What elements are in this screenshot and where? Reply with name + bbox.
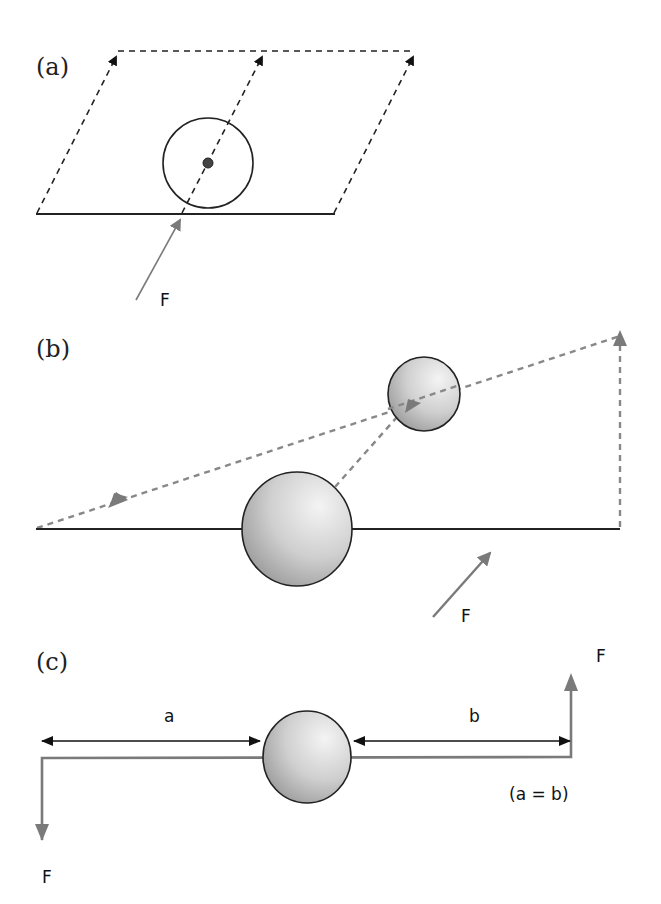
center-of-mass-dot: [203, 158, 213, 168]
pivot-sphere: [263, 711, 351, 803]
force-arrow-a: [136, 220, 180, 300]
large-sphere: [242, 472, 352, 586]
panel-b-label: (b): [36, 335, 70, 363]
down-force-arrowhead-icon: [35, 824, 49, 841]
hypotenuse-arrow-icon: [108, 492, 128, 508]
diagram-canvas: (a) F (b): [0, 0, 661, 904]
force-label-a: F: [160, 290, 170, 310]
panel-a-label: (a): [36, 53, 69, 81]
panel-c: (c) a b F F (a = b): [35, 646, 606, 887]
distance-label-b: b: [469, 706, 480, 726]
force-top-label: F: [596, 646, 606, 666]
force-label-b: F: [461, 606, 471, 626]
force-bottom-label: F: [42, 867, 52, 887]
right-dashed-arrow: [334, 57, 413, 213]
distance-label-a: a: [164, 706, 174, 726]
up-force-arrowhead-icon: [564, 673, 578, 691]
center-dashed-arrow: [182, 57, 262, 213]
panel-b: (b) F: [36, 330, 627, 626]
panel-a: (a) F: [36, 51, 415, 310]
panel-c-label: (c): [36, 648, 68, 676]
dashed-connector: [335, 408, 405, 487]
small-sphere: [388, 357, 460, 431]
condition-note: (a = b): [509, 784, 569, 804]
